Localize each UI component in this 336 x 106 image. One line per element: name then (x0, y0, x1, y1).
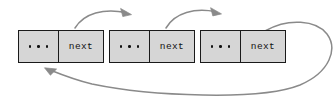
arrow-node1-to-node2-head (121, 8, 132, 16)
ellipsis-icon (29, 45, 49, 48)
arrow-node1-to-node2 (75, 8, 132, 28)
linked-list-diagram: next next next (0, 0, 336, 106)
list-node-3: next (200, 30, 286, 63)
ellipsis-icon (211, 45, 231, 48)
node-1-next-cell: next (59, 31, 103, 62)
node-2-data-cell (110, 31, 150, 62)
arrow-node2-to-node3-head (211, 8, 222, 16)
arrow-node1-to-node2-curve (75, 11, 126, 28)
node-2-next-cell: next (150, 31, 194, 62)
node-3-next-cell: next (241, 31, 285, 62)
node-3-data-cell (201, 31, 241, 62)
ellipsis-icon (120, 45, 140, 48)
arrow-node2-to-node3 (166, 8, 222, 28)
arrow-node2-to-node3-curve (166, 10, 216, 28)
list-node-2: next (109, 30, 195, 63)
node-1-data-cell (19, 31, 59, 62)
list-node-1: next (18, 30, 104, 63)
